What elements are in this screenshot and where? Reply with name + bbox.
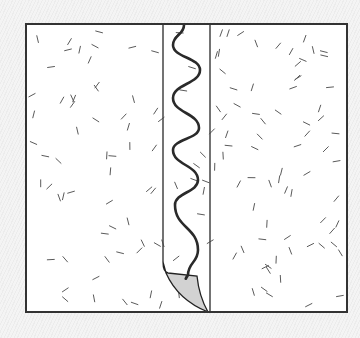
texture-mark	[109, 156, 116, 157]
panel-frame	[26, 24, 347, 312]
texture-mark	[110, 168, 111, 175]
texture-mark	[225, 145, 232, 146]
diagram-canvas	[0, 0, 360, 338]
texture-mark	[327, 87, 334, 88]
texture-mark	[332, 133, 339, 134]
